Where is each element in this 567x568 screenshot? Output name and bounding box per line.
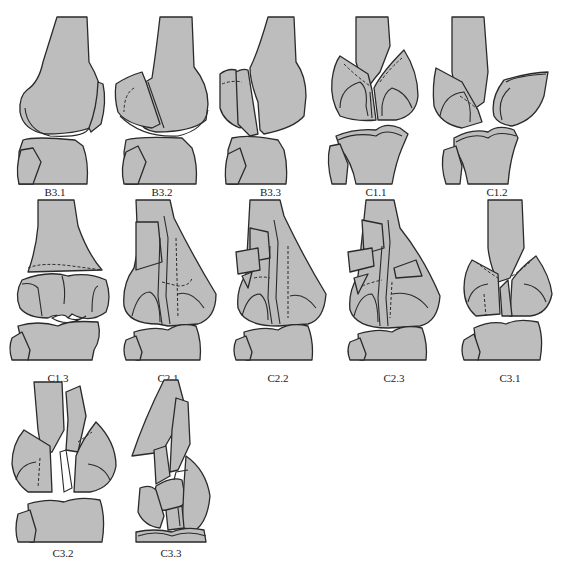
b3-3-illustration — [218, 12, 323, 182]
c2-3-illustration — [344, 198, 444, 363]
panel-c1-3: C1.3 — [8, 198, 108, 388]
panel-c3-1: C3.1 — [460, 198, 560, 388]
panel-c2-1: C2.1 — [118, 198, 218, 388]
panel-c2-3: C2.3 — [344, 198, 444, 388]
b3-2-illustration — [112, 12, 212, 182]
panel-c1-2: C1.2 — [432, 12, 562, 202]
panel-b3-2: B3.2 — [112, 12, 212, 202]
c3-3-illustration — [126, 380, 216, 545]
panel-label: B3.2 — [112, 186, 212, 198]
c1-2-illustration — [432, 12, 562, 182]
panel-b3-1: B3.1 — [5, 12, 105, 202]
panel-c3-2: C3.2 — [8, 380, 118, 568]
panel-c3-3: C3.3 — [126, 380, 216, 568]
c2-1-illustration — [118, 198, 218, 363]
panel-label: C1.2 — [432, 186, 562, 198]
c2-2-illustration — [228, 198, 328, 363]
c3-1-illustration — [460, 198, 560, 363]
panel-label: B3.1 — [5, 186, 105, 198]
panel-c2-2: C2.2 — [228, 198, 328, 388]
panel-label: C3.2 — [8, 547, 118, 559]
c1-1-illustration — [326, 12, 426, 182]
b3-1-illustration — [5, 12, 105, 182]
c3-2-illustration — [8, 380, 118, 545]
panel-label: C1.1 — [326, 186, 426, 198]
panel-label: C2.2 — [228, 372, 328, 384]
panel-label: C3.3 — [126, 547, 216, 559]
panel-label: C2.3 — [344, 372, 444, 384]
c1-3-illustration — [8, 198, 108, 363]
panel-label: B3.3 — [218, 186, 323, 198]
panel-b3-3: B3.3 — [218, 12, 323, 202]
panel-c1-1: C1.1 — [326, 12, 426, 202]
panel-label: C3.1 — [460, 372, 560, 384]
